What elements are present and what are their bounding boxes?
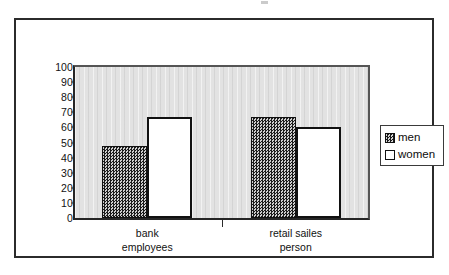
x-axis-category-label: bankemployees [87, 227, 207, 254]
y-axis-tick-label: 80 [47, 92, 73, 103]
bar-women-1 [147, 117, 192, 218]
scan-artifact-speck [261, 1, 268, 4]
y-axis-tick-label: 0 [47, 213, 73, 224]
y-axis-tick-label: 20 [47, 183, 73, 194]
legend-label-women: women [398, 149, 435, 161]
legend-swatch-men-icon [385, 133, 395, 143]
y-axis-tick-label: 50 [47, 137, 73, 148]
bar-women-2 [296, 127, 341, 218]
legend-label-men: men [398, 132, 420, 144]
x-axis-category-label-line: bank [87, 227, 207, 241]
y-axis: 0102030405060708090100 [38, 65, 73, 220]
x-axis-category-label-line: retail sailes [236, 227, 356, 241]
x-axis-category-label-line: person [236, 241, 356, 255]
y-axis-tick-label: 100 [47, 62, 73, 73]
legend-swatch-women-icon [385, 150, 395, 160]
y-axis-tick-label: 90 [47, 77, 73, 88]
x-axis-category-label: retail sailesperson [236, 227, 356, 254]
legend-item-women: women [385, 146, 443, 163]
legend-item-men: men [385, 129, 443, 146]
y-axis-tick-label: 60 [47, 122, 73, 133]
x-axis-category-tick [222, 220, 223, 227]
bar-men-1 [102, 146, 147, 218]
y-axis-tick-label: 10 [47, 198, 73, 209]
y-axis-tick-label: 40 [47, 152, 73, 163]
y-axis-tick-label: 30 [47, 167, 73, 178]
chart-figure-frame: 0102030405060708090100 men women bankemp… [14, 18, 434, 258]
y-axis-tick-label: 70 [47, 107, 73, 118]
x-axis-category-label-line: employees [87, 241, 207, 255]
bar-men-2 [251, 117, 296, 218]
chart-legend: men women [380, 125, 444, 166]
